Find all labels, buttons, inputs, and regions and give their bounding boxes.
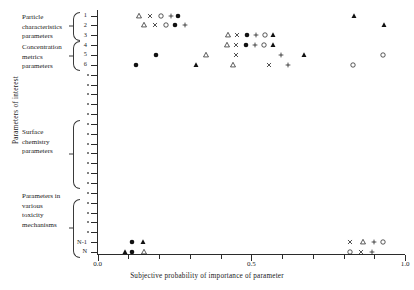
data-point-plus bbox=[284, 60, 293, 69]
y-axis-ellipsis-dot bbox=[87, 84, 89, 86]
brace-surface-chemistry bbox=[73, 120, 80, 189]
data-point-cross-x bbox=[231, 50, 240, 59]
x-tick bbox=[190, 255, 191, 259]
data-point-cross-x bbox=[357, 247, 366, 256]
y-tick bbox=[91, 163, 97, 164]
group-label-line: parameters bbox=[22, 32, 62, 42]
y-tick bbox=[91, 144, 97, 145]
x-tick-label: 0.0 bbox=[93, 260, 102, 268]
y-axis-ellipsis-dot bbox=[87, 93, 89, 95]
brace-particle-characteristics bbox=[73, 12, 80, 42]
group-label-line: metrics bbox=[22, 53, 62, 63]
data-point-filled-circle bbox=[174, 11, 183, 20]
data-point-cross-x bbox=[345, 237, 354, 246]
y-tick bbox=[91, 232, 97, 233]
group-label-line: toxicity bbox=[22, 211, 60, 221]
data-point-cross-x bbox=[264, 60, 273, 69]
data-point-filled-triangle bbox=[138, 237, 147, 246]
group-label-toxicity-mechanisms: Parameters invarioustoxicitymechanisms bbox=[22, 192, 60, 230]
data-point-plus bbox=[368, 247, 377, 256]
data-point-open-triangle bbox=[134, 11, 143, 20]
y-tick bbox=[91, 104, 97, 105]
group-label-line: parameters bbox=[22, 147, 53, 157]
data-point-open-triangle bbox=[228, 60, 237, 69]
data-point-filled-triangle bbox=[268, 40, 277, 49]
y-tick bbox=[91, 203, 97, 204]
y-axis-ellipsis-dot bbox=[87, 133, 89, 135]
x-tick bbox=[159, 255, 160, 259]
data-point-filled-circle bbox=[127, 247, 136, 256]
data-point-open-circle bbox=[345, 247, 354, 256]
y-tick bbox=[91, 35, 97, 36]
y-axis-ellipsis-dot bbox=[87, 113, 89, 115]
x-tick-label: 1.0 bbox=[401, 260, 410, 268]
group-label-line: Particle bbox=[22, 13, 62, 23]
y-tick bbox=[91, 16, 97, 17]
scatter-chart-figure: Parameters of interest Particlecharacter… bbox=[0, 0, 414, 290]
y-axis-ellipsis-dot bbox=[87, 192, 89, 194]
y-tick bbox=[91, 134, 97, 135]
y-tick bbox=[91, 75, 97, 76]
data-point-filled-triangle bbox=[350, 11, 359, 20]
y-axis-ellipsis-dot bbox=[87, 182, 89, 184]
data-point-plus bbox=[277, 50, 286, 59]
data-point-open-triangle bbox=[358, 237, 367, 246]
y-axis-ellipsis-dot bbox=[87, 212, 89, 214]
y-tick bbox=[91, 173, 97, 174]
data-point-cross-x bbox=[145, 11, 154, 20]
y-axis-ellipsis-dot bbox=[87, 103, 89, 105]
data-point-open-triangle bbox=[140, 21, 149, 30]
group-label-line: Parameters in bbox=[22, 192, 60, 202]
group-label-surface-chemistry: Surfacechemistryparameters bbox=[22, 128, 53, 157]
y-tick bbox=[91, 124, 97, 125]
y-tick bbox=[91, 55, 97, 56]
brace-concentration-metrics bbox=[73, 41, 80, 71]
y-axis-ellipsis-dot bbox=[87, 231, 89, 233]
y-axis-ellipsis-dot bbox=[87, 221, 89, 223]
x-tick-label: 0.5 bbox=[247, 260, 256, 268]
data-point-filled-circle bbox=[131, 60, 140, 69]
data-point-open-circle bbox=[156, 11, 165, 20]
data-point-filled-circle bbox=[171, 21, 180, 30]
group-label-line: various bbox=[22, 202, 60, 212]
data-point-cross-x bbox=[150, 21, 159, 30]
x-tick bbox=[221, 255, 222, 259]
y-tick bbox=[91, 25, 97, 26]
y-axis-ellipsis-dot bbox=[87, 74, 89, 76]
group-label-line: Surface bbox=[22, 128, 53, 138]
y-tick bbox=[91, 114, 97, 115]
data-point-open-triangle bbox=[222, 40, 231, 49]
data-point-plus bbox=[180, 21, 189, 30]
group-label-line: parameters bbox=[22, 62, 62, 72]
x-tick bbox=[282, 255, 283, 259]
group-label-line: mechanisms bbox=[22, 221, 60, 231]
y-axis-ellipsis-dot bbox=[87, 123, 89, 125]
y-axis-ellipsis-dot bbox=[87, 152, 89, 154]
data-point-cross-x bbox=[231, 40, 240, 49]
group-label-line: characteristics bbox=[22, 23, 62, 33]
data-point-filled-triangle bbox=[191, 60, 200, 69]
data-point-open-circle bbox=[161, 21, 170, 30]
group-label-line: chemistry bbox=[22, 138, 53, 148]
data-point-filled-circle bbox=[127, 237, 136, 246]
data-point-plus bbox=[251, 31, 260, 40]
y-tick bbox=[91, 65, 97, 66]
x-tick bbox=[313, 255, 314, 259]
data-point-filled-triangle bbox=[379, 21, 388, 30]
y-axis-line bbox=[97, 10, 98, 255]
data-point-filled-triangle bbox=[269, 31, 278, 40]
group-label-line: Concentration bbox=[22, 43, 62, 53]
y-axis-title: Parameters of interest bbox=[12, 50, 20, 170]
y-tick bbox=[91, 213, 97, 214]
data-point-open-triangle bbox=[139, 247, 148, 256]
y-tick bbox=[91, 252, 97, 253]
data-point-plus bbox=[250, 40, 259, 49]
y-tick bbox=[91, 94, 97, 95]
data-point-filled-circle bbox=[241, 40, 250, 49]
y-axis-ellipsis-dot bbox=[87, 202, 89, 204]
data-point-filled-triangle bbox=[299, 50, 308, 59]
y-tick bbox=[91, 193, 97, 194]
data-point-open-circle bbox=[378, 50, 387, 59]
y-tick bbox=[91, 45, 97, 46]
y-tick bbox=[91, 222, 97, 223]
